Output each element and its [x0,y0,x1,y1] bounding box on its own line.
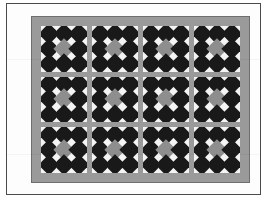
nine-patch [194,26,240,72]
nine-patch [194,77,240,123]
diamond-patch [120,155,138,173]
nine-patch [41,77,87,123]
nine-patch [194,127,240,173]
patch-cell [174,56,189,71]
diamond-patch [222,53,240,71]
diamond-patch [222,104,240,122]
nine-patch [143,127,189,173]
image-canvas [0,0,269,200]
quilt-block [41,77,87,123]
diamond-patch [69,104,87,122]
patch-cell [72,107,87,122]
quilt-block [41,127,87,173]
quilt-block [143,127,189,173]
diamond-patch [171,104,189,122]
quilt-block [194,127,240,173]
patch-cell [72,158,87,173]
nine-patch [92,77,138,123]
quilt-block [143,77,189,123]
photo-frame [6,3,261,195]
diamond-patch [171,53,189,71]
nine-patch [41,127,87,173]
quilt-block [92,77,138,123]
quilt-block [92,26,138,72]
nine-patch [92,127,138,173]
diamond-patch [120,53,138,71]
nine-patch [92,26,138,72]
diamond-patch [120,104,138,122]
quilt-block [194,26,240,72]
quilt [31,16,250,183]
diamond-patch [69,53,87,71]
quilt-block [41,26,87,72]
patch-cell [72,56,87,71]
patch-cell [225,158,240,173]
patch-cell [225,107,240,122]
nine-patch [143,77,189,123]
patch-cell [225,56,240,71]
patch-cell [174,158,189,173]
patch-cell [174,107,189,122]
patch-cell [123,107,138,122]
quilt-block [92,127,138,173]
nine-patch [41,26,87,72]
nine-patch [143,26,189,72]
quilt-block-grid [41,26,240,173]
patch-cell [123,158,138,173]
quilt-block [194,77,240,123]
diamond-patch [171,155,189,173]
quilt-block [143,26,189,72]
patch-cell [123,56,138,71]
diamond-patch [222,155,240,173]
diamond-patch [69,155,87,173]
